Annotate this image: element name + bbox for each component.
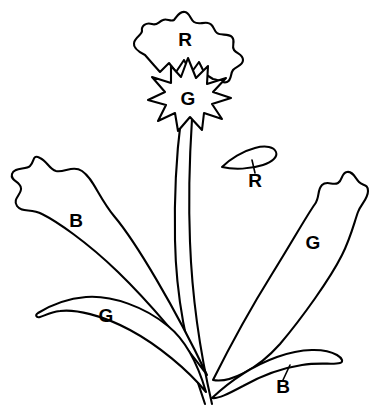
label-star-center: G	[181, 88, 196, 109]
label-detached-petal: R	[248, 170, 262, 191]
label-corolla-upper: R	[178, 29, 192, 50]
flower-drawing-canvas: R G R B G G B	[0, 0, 371, 411]
label-leaf-right-upper: G	[306, 232, 321, 253]
label-leaf-left-upper: B	[69, 210, 83, 231]
label-leaf-right-lower: B	[276, 376, 290, 397]
botanical-figure: R G R B G G B	[0, 0, 371, 411]
label-leaf-left-lower: G	[99, 305, 114, 326]
